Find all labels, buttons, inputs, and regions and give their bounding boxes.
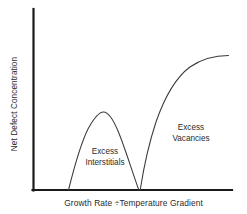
x-axis-label-text: Growth Rate ÷Temperature Gradient — [44, 198, 203, 209]
chart-figure: Net Defect Concentration Growth Rate ÷Te… — [0, 0, 247, 214]
annotation-vacancies-line2: Vacancies — [152, 133, 230, 144]
annotation-interstitials-line2: Interstitials — [66, 157, 144, 168]
y-axis-label: Net Defect Concentration — [8, 48, 22, 160]
annotation-interstitials-line1: Excess — [66, 146, 144, 157]
annotation-vacancies-line1: Excess — [152, 122, 230, 133]
annotation-excess-interstitials: Excess Interstitials — [66, 146, 144, 168]
y-axis-label-text: Net Defect Concentration — [10, 57, 21, 151]
plot-area — [0, 0, 247, 214]
annotation-excess-vacancies: Excess Vacancies — [152, 122, 230, 144]
x-axis-label: Growth Rate ÷Temperature Gradient — [0, 198, 247, 209]
